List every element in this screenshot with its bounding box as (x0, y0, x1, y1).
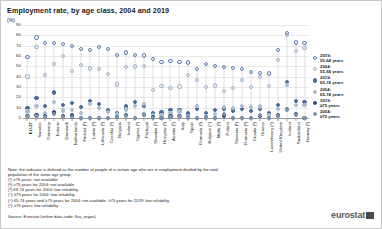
legend-marker-icon (313, 90, 317, 94)
y-axis-tick-label: 80 (16, 33, 21, 37)
data-point (302, 103, 306, 107)
data-point (302, 46, 306, 50)
data-point (97, 45, 101, 49)
x-axis-category-label: EU-27 (29, 122, 34, 134)
data-point (294, 113, 298, 117)
data-point (249, 116, 253, 120)
x-axis-category-label: Norway (¹) (306, 122, 311, 142)
legend-item[interactable]: 2019: 65-74 years (313, 75, 379, 86)
data-point (61, 54, 65, 58)
data-point (249, 70, 253, 74)
x-axis-category-label: Slovenia (¹) (235, 122, 240, 144)
y-axis-tick-label: 20 (16, 95, 21, 99)
x-axis-tick (54, 118, 55, 121)
data-point (70, 44, 74, 48)
data-point (88, 66, 92, 70)
data-point (177, 109, 181, 113)
data-point (195, 67, 199, 71)
gridline: 90 (23, 25, 309, 26)
data-point (302, 116, 306, 120)
data-point (124, 65, 128, 69)
legend-item[interactable]: 2004: 65-74 years (313, 87, 379, 98)
x-axis-category-label: Italy (181, 122, 186, 130)
data-point (43, 41, 47, 45)
x-axis-category-label: Romania (¹) (199, 122, 204, 145)
data-point (240, 104, 244, 108)
x-axis-tick (277, 118, 278, 121)
x-axis-category-label: Spain (190, 122, 195, 133)
x-axis-category-label: Iceland (288, 122, 293, 136)
x-axis-category-label: Ireland (127, 122, 132, 135)
x-axis-category-label: Estonia (56, 122, 61, 136)
legend-label: 2004: 65-74 years (320, 87, 343, 97)
footnotes: Note: the indicator is defined as the nu… (8, 167, 308, 208)
data-point (168, 115, 172, 119)
x-axis-category-label: Luxembourg (⁵) (270, 122, 275, 152)
legend-marker-icon (313, 56, 317, 60)
data-point (34, 114, 38, 118)
data-point (25, 55, 29, 59)
data-point (52, 62, 56, 66)
data-point (133, 53, 137, 57)
data-point (106, 47, 110, 51)
data-point (213, 64, 217, 68)
x-axis-category-label: Latvia (¹) (92, 122, 97, 139)
plot-area: 0102030405060708090EU-27SwedenGermanyEst… (23, 25, 309, 118)
data-point (88, 116, 92, 120)
legend-item[interactable]: 2019: 55-64 years (313, 53, 379, 64)
y-axis-tick-label: 40 (16, 75, 21, 79)
data-point (258, 113, 262, 117)
data-point (213, 83, 217, 87)
data-point (222, 89, 226, 93)
y-axis-tick-label: 30 (16, 85, 21, 89)
x-axis-category-label: Croatia (¹) (253, 122, 258, 141)
data-point (177, 60, 181, 64)
legend-marker-icon (313, 112, 317, 116)
y-axis-tick-label: 60 (16, 54, 21, 58)
x-axis-category-label: Switzerland (297, 122, 302, 144)
data-point (159, 84, 163, 88)
data-point (177, 84, 181, 88)
legend-marker-icon (313, 78, 317, 82)
legend-item[interactable]: 2004: 55-64 years (313, 64, 379, 75)
gridline: 50 (23, 66, 309, 67)
data-point (294, 103, 298, 107)
data-point (142, 64, 146, 68)
data-point (240, 78, 244, 82)
data-point (151, 88, 155, 92)
data-point (70, 108, 74, 112)
data-point (106, 72, 110, 76)
x-axis-category-label: Hungary (¹) (163, 122, 168, 144)
legend-item[interactable]: 2019: ≥75 years (313, 98, 379, 109)
gridline: 20 (23, 97, 309, 98)
legend-item[interactable]: 2004: ≥75 years (313, 109, 379, 120)
data-point (276, 58, 280, 62)
chart-frame: Employment rate, by age class, 2004 and … (0, 0, 382, 229)
gridline: 30 (23, 87, 309, 88)
data-point (106, 110, 110, 114)
data-point (231, 66, 235, 70)
x-axis-category-label: United Kingdom (279, 122, 284, 153)
y-axis-tick-label: 0 (19, 116, 21, 120)
gridline: 70 (23, 46, 309, 47)
connector-stem (259, 73, 260, 118)
data-point (88, 102, 92, 106)
legend-label: 2019: 55-64 years (320, 53, 343, 63)
x-axis-category-label: Poland (226, 122, 231, 135)
legend-marker-icon (313, 101, 317, 105)
data-point (195, 78, 199, 82)
x-axis-category-label: Netherlands (74, 122, 79, 145)
data-point (79, 111, 83, 115)
data-point (267, 71, 271, 75)
data-point (79, 47, 83, 51)
chart-legend: 2019: 55-64 years2004: 55-64 years2019: … (313, 53, 379, 120)
data-point (97, 116, 101, 120)
data-point (34, 35, 38, 39)
connector-stem (90, 50, 91, 118)
x-axis-category-label: Austria (³) (172, 122, 177, 141)
x-axis-category-label: Slovakia (²) (154, 122, 159, 144)
x-axis-category-label: Germany (47, 122, 52, 140)
gridline: 80 (23, 35, 309, 36)
source-line: Source: Eurostat (online data code: lfsa… (8, 214, 96, 219)
x-axis-tick (179, 118, 180, 121)
